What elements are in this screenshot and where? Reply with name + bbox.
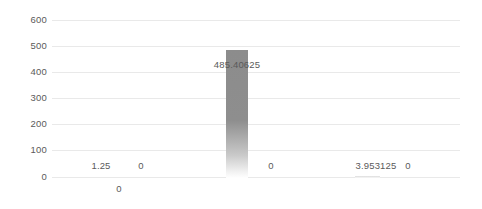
y-tick-label-400: 400 [0, 67, 47, 77]
gridline-500 [52, 46, 460, 47]
y-tick-label-600: 600 [0, 15, 47, 25]
gridline-100 [52, 150, 460, 151]
data-label-485-40625: 485.40625 [214, 59, 260, 70]
data-label-1-25: 1.25 [91, 160, 110, 171]
gridline-200 [52, 124, 460, 125]
y-tick-label-200: 200 [0, 119, 47, 129]
y-tick-label-0: 0 [0, 172, 47, 182]
plot-area [52, 20, 460, 178]
bar-chart: 600 500 400 300 200 100 0 1.25 0 0 485.4… [0, 0, 482, 209]
gridline-0 [52, 177, 460, 178]
gridline-600 [52, 20, 460, 21]
data-label-zero-a: 0 [138, 160, 143, 171]
y-axis: 600 500 400 300 200 100 0 [0, 0, 47, 209]
data-label-3-953125: 3.953125 [356, 160, 397, 171]
data-label-zero-d: 0 [405, 160, 410, 171]
y-tick-label-500: 500 [0, 41, 47, 51]
data-label-zero-c: 0 [268, 160, 273, 171]
bar-3-95[interactable] [355, 176, 380, 178]
gridline-300 [52, 98, 460, 99]
data-label-zero-b: 0 [116, 183, 121, 194]
gridline-400 [52, 72, 460, 73]
y-tick-label-300: 300 [0, 93, 47, 103]
y-tick-label-100: 100 [0, 145, 47, 155]
